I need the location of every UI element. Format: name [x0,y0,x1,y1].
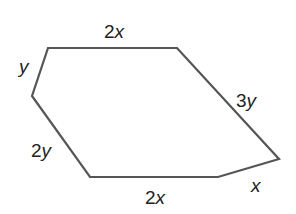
side-label-lower-left: 2y [31,140,53,161]
side-label-lower-right: x [250,175,262,196]
hexagon-shape [32,48,279,177]
side-label-upper-left: y [17,56,30,77]
diagram-canvas: 2x 3y x 2x 2y y [0,0,296,214]
side-label-upper-right: 3y [236,90,258,111]
hexagon-diagram: 2x 3y x 2x 2y y [0,0,296,214]
side-label-bottom: 2x [145,187,167,208]
side-label-top: 2x [104,21,126,42]
